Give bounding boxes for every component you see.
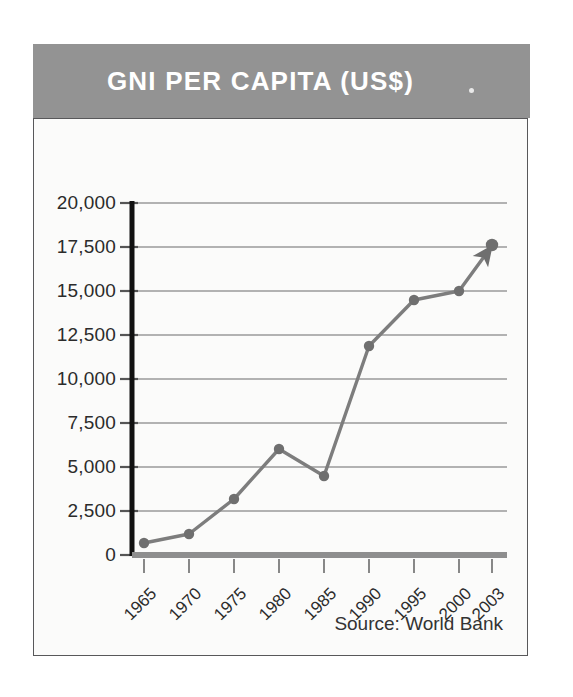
- y-tick-label: 17,500: [34, 236, 116, 258]
- y-tick-label: 7,500: [34, 412, 116, 434]
- y-tick-label: 10,000: [34, 368, 116, 390]
- data-point: [274, 444, 284, 454]
- data-point: [409, 295, 419, 305]
- y-axis-ticks: [120, 203, 138, 555]
- data-point-markers: [139, 239, 498, 548]
- x-axis-ticks: [144, 559, 492, 573]
- source-note: Source: World Bank: [334, 613, 503, 635]
- data-point: [486, 239, 498, 251]
- y-tick-label: 2,500: [34, 500, 116, 522]
- chart-title-banner: GNI PER CAPITA (US$): [33, 44, 530, 118]
- y-tick-label: 5,000: [34, 456, 116, 478]
- chart-figure: GNI PER CAPITA (US$): [33, 44, 530, 658]
- y-tick-label: 12,500: [34, 324, 116, 346]
- data-line: [144, 254, 486, 543]
- page-title: GNI PER CAPITA (US$): [33, 44, 488, 118]
- y-gridlines: [132, 203, 507, 511]
- data-point: [454, 286, 464, 296]
- chart-panel: 20,000 17,500 15,000 12,500 10,000 7,500…: [33, 118, 528, 656]
- data-point: [364, 341, 374, 351]
- y-tick-label: 15,000: [34, 280, 116, 302]
- y-tick-label: 20,000: [34, 192, 116, 214]
- data-point: [229, 494, 239, 504]
- banner-speck-artifact: [469, 88, 474, 93]
- y-tick-label: 0: [34, 544, 116, 566]
- data-point: [184, 529, 194, 539]
- data-point: [319, 471, 329, 481]
- data-point: [139, 538, 149, 548]
